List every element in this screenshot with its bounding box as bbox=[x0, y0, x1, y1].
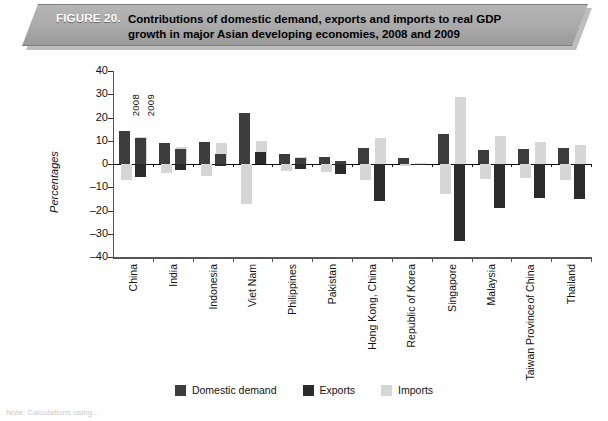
bar-imports-2008-1 bbox=[161, 164, 172, 173]
x-label-taiwan-province-of-china: Taiwan Provinceof China bbox=[525, 264, 536, 381]
bar-exports-2009-2 bbox=[215, 164, 226, 166]
bar-domestic-2008-8 bbox=[438, 134, 449, 164]
zero-tickmark-9 bbox=[511, 164, 512, 167]
zero-tickmark-7 bbox=[432, 164, 433, 167]
x-tickmark-1 bbox=[193, 257, 194, 262]
y-tick-10: 10 bbox=[74, 134, 108, 146]
bar-exports-2009-1 bbox=[175, 164, 186, 170]
zero-tickmark-0 bbox=[153, 164, 154, 167]
x-tickmark-4 bbox=[312, 257, 313, 262]
x-tickmark-10 bbox=[551, 257, 552, 262]
bar-imports-2008-0 bbox=[121, 164, 132, 180]
y-tick--10: –10 bbox=[74, 180, 108, 192]
y-tickmark--20 bbox=[108, 211, 113, 212]
bar-imports-2008-3 bbox=[241, 164, 252, 204]
y-axis-label: Percentages bbox=[48, 122, 60, 242]
zero-tickmark-4 bbox=[312, 164, 313, 167]
bar-exports-2009-11 bbox=[574, 164, 585, 199]
zero-tickmark-8 bbox=[472, 164, 473, 167]
x-label-pakistan: Pakistan bbox=[326, 264, 338, 304]
bar-domestic-2008-3 bbox=[239, 113, 250, 164]
bar-exports-2009-9 bbox=[494, 164, 505, 208]
y-tick-30: 30 bbox=[74, 87, 108, 99]
bar-exports-2009-10 bbox=[534, 164, 545, 198]
y-tickmark-30 bbox=[108, 94, 113, 95]
x-label-republic-of-korea: Republic of Korea bbox=[406, 264, 417, 347]
bar-domestic-2008-4 bbox=[279, 154, 290, 164]
x-tickmark-2 bbox=[233, 257, 234, 262]
chart-plot-area: Percentages 403020100–10–20–30–40 ChinaI… bbox=[0, 58, 608, 358]
bar-exports-2009-7 bbox=[414, 164, 425, 165]
y-tickmark-0 bbox=[108, 164, 113, 165]
figure-title-line2: growth in major Asian developing economi… bbox=[128, 27, 568, 42]
bar-exports-2009-3 bbox=[255, 152, 266, 164]
y-tick--30: –30 bbox=[74, 227, 108, 239]
y-tick-40: 40 bbox=[74, 64, 108, 76]
y-tickmark-20 bbox=[108, 118, 113, 119]
x-label-viet-nam: Viet Nam bbox=[246, 264, 258, 307]
bar-domestic-2008-7 bbox=[398, 158, 409, 164]
x-label-malaysia: Malaysia bbox=[485, 264, 497, 305]
y-tick-20: 20 bbox=[74, 111, 108, 123]
y-tickmark--10 bbox=[108, 187, 113, 188]
y-tick-0: 0 bbox=[74, 157, 108, 169]
x-tickmark-11 bbox=[591, 257, 592, 262]
bar-imports-2008-7 bbox=[400, 164, 411, 166]
legend-item-exports: Exports bbox=[303, 384, 356, 396]
legend-swatch-exports bbox=[303, 385, 314, 396]
figure-title-line1: Contributions of domestic demand, export… bbox=[128, 13, 501, 25]
bar-domestic-2008-2 bbox=[199, 142, 210, 164]
y-tickmark-40 bbox=[108, 71, 113, 72]
zero-tickmark-3 bbox=[272, 164, 273, 167]
x-tickmark-5 bbox=[352, 257, 353, 262]
legend-label-imports: Imports bbox=[398, 384, 433, 396]
zero-tickmark-5 bbox=[352, 164, 353, 167]
bar-imports-2008-2 bbox=[201, 164, 212, 176]
x-label-singapore: Singapore bbox=[446, 264, 458, 312]
y-tickmark--40 bbox=[108, 257, 113, 258]
legend-label-exports: Exports bbox=[320, 384, 356, 396]
zero-tickmark-1 bbox=[193, 164, 194, 167]
zero-tickmark-11 bbox=[591, 164, 592, 167]
bar-imports-2008-5 bbox=[321, 164, 332, 172]
legend-item-imports: Imports bbox=[381, 384, 433, 396]
bar-imports-2008-6 bbox=[360, 164, 371, 180]
y-axis-tick-labels: 403020100–10–20–30–40 bbox=[72, 58, 108, 268]
chart-legend: Domestic demandExportsImports bbox=[0, 381, 608, 399]
x-label-hong-kong-china: Hong Kong, China bbox=[366, 264, 378, 350]
zero-tickmark-6 bbox=[392, 164, 393, 167]
bar-domestic-2009-1 bbox=[175, 149, 186, 164]
x-label-thailand: Thailand bbox=[565, 264, 577, 304]
legend-label-domestic-demand: Domestic demand bbox=[192, 384, 277, 396]
zero-tickmark-2 bbox=[233, 164, 234, 167]
figure-banner: FIGURE 20. Contributions of domestic dem… bbox=[0, 4, 608, 52]
bar-exports-2009-4 bbox=[295, 164, 306, 169]
bar-domestic-2008-6 bbox=[358, 148, 369, 164]
bar-domestic-2008-9 bbox=[478, 150, 489, 164]
y-tick--20: –20 bbox=[74, 204, 108, 216]
bar-exports-2009-6 bbox=[374, 164, 385, 201]
bar-imports-2008-9 bbox=[480, 164, 491, 179]
bar-domestic-2008-1 bbox=[159, 143, 170, 164]
bar-imports-2009-11 bbox=[575, 145, 586, 164]
legend-swatch-domestic-demand bbox=[175, 385, 186, 396]
bar-domestic-2009-0 bbox=[135, 138, 146, 164]
bar-domestic-2008-0 bbox=[119, 131, 130, 164]
bar-exports-2009-0 bbox=[135, 164, 146, 177]
bar-imports-2008-10 bbox=[520, 164, 531, 178]
x-label-philippines: Philippines bbox=[286, 264, 298, 315]
x-tickmark-6 bbox=[392, 257, 393, 262]
x-tickmark-3 bbox=[272, 257, 273, 262]
legend-swatch-imports bbox=[381, 385, 392, 396]
bar-imports-2008-11 bbox=[560, 164, 571, 180]
x-tickmark-0 bbox=[153, 257, 154, 262]
bar-domestic-2008-5 bbox=[319, 157, 330, 164]
bar-imports-2009-6 bbox=[375, 138, 386, 164]
bar-imports-2009-9 bbox=[495, 136, 506, 164]
bar-domestic-2008-10 bbox=[518, 149, 529, 164]
x-label-indonesia: Indonesia bbox=[207, 264, 219, 310]
year-label-2009: 2009 bbox=[145, 94, 156, 116]
bar-imports-2009-8 bbox=[455, 97, 466, 164]
x-label-india: India bbox=[167, 264, 179, 287]
bar-imports-2008-8 bbox=[440, 164, 451, 194]
